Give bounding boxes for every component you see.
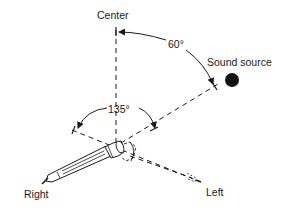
angle-60-label: 60° — [168, 39, 184, 50]
sound-source-dot — [225, 73, 239, 87]
diagram-canvas: Center 60° Sound source 135° Right Left — [0, 0, 289, 208]
left-microphone — [121, 142, 201, 182]
sound-source-label: Sound source — [207, 57, 272, 68]
diagram-drawing — [0, 0, 289, 208]
angle-135-label: 135° — [108, 104, 130, 115]
center-label: Center — [97, 10, 129, 21]
sound-source-direction-line — [121, 82, 218, 143]
right-microphone — [42, 140, 125, 184]
right-label: Right — [24, 189, 49, 200]
angle-arc-60 — [119, 32, 213, 84]
left-label: Left — [206, 187, 224, 198]
